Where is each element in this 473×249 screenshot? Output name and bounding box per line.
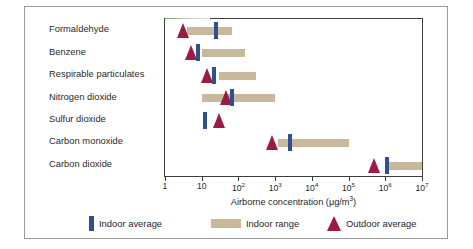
scan-artifact (165, 18, 210, 19)
outdoor-average-marker (213, 113, 225, 128)
category-label-5: Carbon monoxide (49, 134, 123, 148)
category-label-2: Respirable particulates (49, 67, 144, 81)
chart-row (165, 154, 422, 176)
x-axis-title: Airborne concentration (μg/m3) (164, 195, 423, 207)
indoor-range-bar (202, 94, 275, 102)
x-tick-label-5: 105 (342, 181, 355, 193)
indoor-range-bar (187, 27, 231, 35)
outdoor-average-marker (185, 45, 197, 60)
blue-bar-swatch (89, 216, 94, 231)
x-tick-label-2: 102 (232, 181, 245, 193)
legend-label-1: Indoor range (246, 218, 299, 229)
indoor-average-marker (230, 89, 234, 106)
indoor-range-bar (219, 72, 256, 80)
maroon-triangle-swatch (327, 216, 341, 231)
indoor-average-marker (385, 157, 389, 174)
category-label-1: Benzene (49, 45, 86, 59)
category-label-3: Nitrogen dioxide (49, 90, 117, 104)
x-tick-label-1: 10 (197, 181, 207, 191)
x-axis-tick-labels: 110102103104105106107 (164, 181, 423, 195)
x-tick-label-4: 104 (305, 181, 318, 193)
indoor-range-bar (385, 162, 422, 170)
chart-row (165, 19, 422, 41)
chart-row (165, 41, 422, 63)
chart-row (165, 131, 422, 153)
outdoor-average-marker (368, 158, 380, 173)
category-label-6: Carbon dioxide (49, 157, 112, 171)
legend-label-0: Indoor average (99, 218, 162, 229)
plot-area (164, 18, 423, 177)
indoor-average-marker (203, 112, 207, 129)
indoor-range-bar (202, 49, 245, 57)
indoor-average-marker (212, 67, 216, 84)
outdoor-average-marker (177, 23, 189, 38)
x-tick-label-3: 103 (269, 181, 282, 193)
indoor-average-marker (196, 44, 200, 61)
indoor-average-marker (288, 134, 292, 151)
x-tick-label-0: 1 (163, 181, 168, 191)
chart-row (165, 64, 422, 86)
legend-item-2: Outdoor average (327, 214, 416, 232)
legend-item-0: Indoor average (89, 214, 162, 232)
outdoor-average-marker (201, 68, 213, 83)
x-tick-label-7: 107 (415, 181, 428, 193)
chart-legend: Indoor averageIndoor rangeOutdoor averag… (89, 214, 419, 232)
chart-row (165, 86, 422, 108)
x-tick-label-6: 106 (379, 181, 392, 193)
tan-band-swatch (211, 219, 241, 228)
chart-row (165, 109, 422, 131)
legend-label-2: Outdoor average (346, 218, 416, 229)
plot-series-layer (165, 19, 422, 176)
category-label-4: Sulfur dioxide (49, 112, 106, 126)
chart-figure: FormaldehydeBenzeneRespirable particulat… (24, 6, 448, 239)
outdoor-average-marker (266, 135, 278, 150)
legend-item-1: Indoor range (211, 214, 299, 232)
category-label-column: FormaldehydeBenzeneRespirable particulat… (25, 7, 164, 177)
category-label-0: Formaldehyde (49, 22, 109, 36)
indoor-average-marker (214, 22, 218, 39)
